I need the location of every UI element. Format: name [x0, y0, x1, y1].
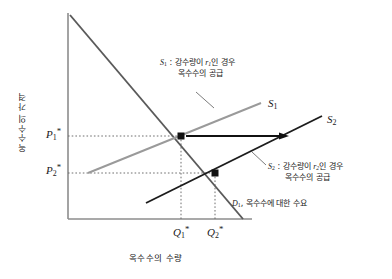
- d1-note-text: , 옥수수에 대한 수요: [241, 199, 307, 208]
- annotation-supply-s2-line1: S2 : 강수량이 r2인 경우: [268, 162, 343, 173]
- s2-note-mid: : 강수량이: [275, 162, 313, 171]
- s1-note-leader-line: [196, 92, 214, 108]
- curve-label-s1: S1: [268, 97, 277, 112]
- equilibrium-point-2: [212, 170, 219, 177]
- annotation-supply-s1: S1 : 강수량이 r1인 경우 옥수수의 공급: [160, 58, 235, 79]
- s2-note-leader-line: [252, 152, 266, 165]
- p2-letter: P: [46, 164, 53, 176]
- equilibrium-point-1: [178, 133, 185, 140]
- s1-subscript: 1: [274, 102, 278, 111]
- y-tick-label-p1: P1*: [46, 126, 61, 143]
- s2-subscript: 2: [333, 118, 337, 127]
- y-tick-label-p2: P2*: [46, 162, 61, 179]
- annotation-supply-s2-line2: 옥수수의 공급: [268, 173, 343, 183]
- p1-letter: P: [46, 128, 53, 140]
- x-tick-label-q1: Q1*: [173, 224, 189, 241]
- q2-letter: Q: [207, 226, 215, 238]
- supply-curve-s1: [88, 103, 261, 173]
- supply-curve-s2: [146, 116, 322, 203]
- demand-curve-d1: [70, 15, 243, 219]
- s1-note-post: 인 경우: [211, 58, 235, 67]
- q1-star: *: [185, 224, 189, 234]
- x-axis-title: 옥수수의 수량: [129, 253, 183, 264]
- x-tick-label-q2: Q2*: [207, 224, 223, 241]
- s2-note-post: 인 경우: [319, 162, 343, 171]
- s1-note-mid: : 강수량이: [167, 58, 205, 67]
- annotation-supply-s1-line2: 옥수수의 공급: [160, 69, 235, 79]
- annotation-supply-s1-line1: S1 : 강수량이 r1인 경우: [160, 58, 235, 69]
- p1-star: *: [57, 126, 61, 136]
- curve-label-s2: S2: [327, 113, 336, 128]
- q2-star: *: [219, 224, 223, 234]
- annotation-demand-d1: D1, 옥수수에 대한 수요: [232, 199, 307, 210]
- q1-letter: Q: [173, 226, 181, 238]
- annotation-supply-s2: S2 : 강수량이 r2인 경우 옥수수의 공급: [268, 162, 343, 183]
- y-axis-title: 옥수수의 가격: [18, 92, 32, 152]
- supply-demand-figure: 옥수수의 가격 옥수수의 수량 P1* P2* Q1* Q2* S1 S2 S1…: [0, 0, 392, 279]
- p2-star: *: [57, 162, 61, 172]
